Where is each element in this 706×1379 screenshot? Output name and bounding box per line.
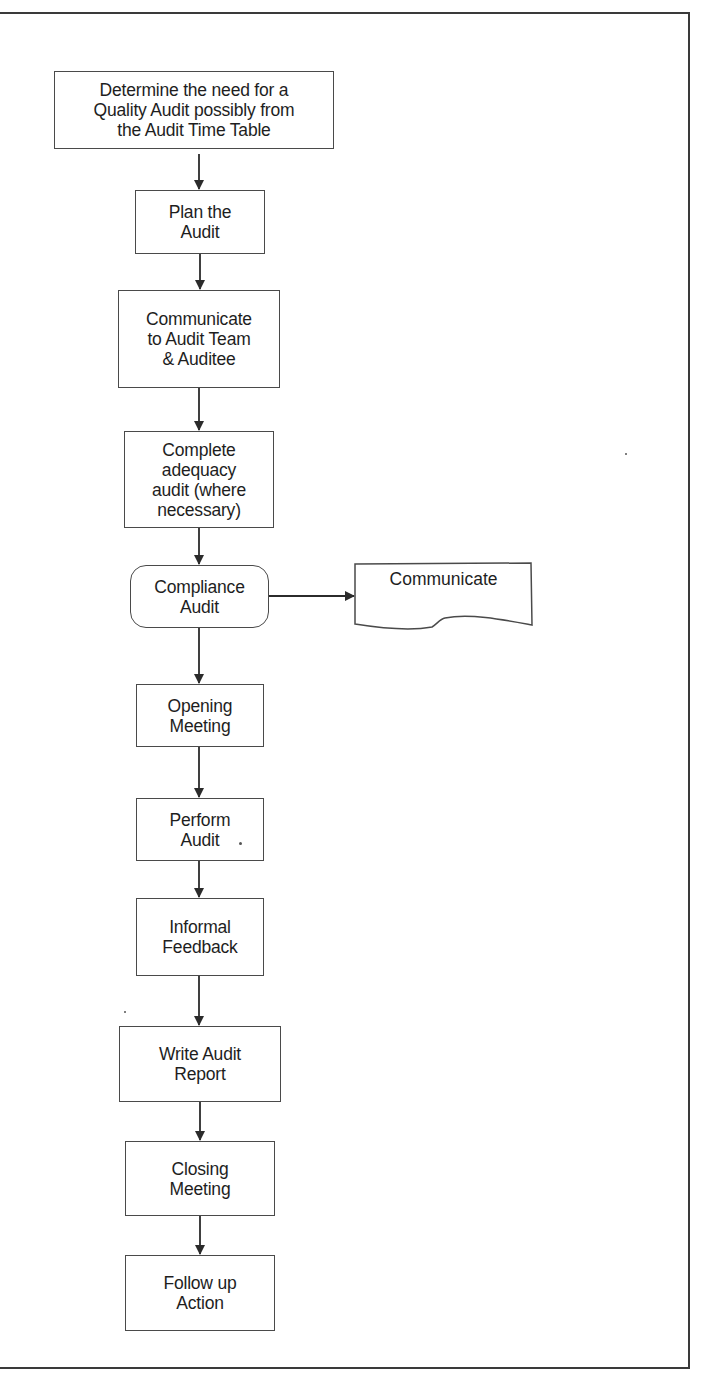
node-perform-audit: Perform Audit: [136, 798, 264, 861]
node-follow-up-action: Follow up Action: [125, 1255, 275, 1331]
node-compliance-audit: Compliance Audit: [130, 565, 269, 628]
node-adequacy-audit: Complete adequacy audit (where necessary…: [124, 431, 274, 528]
node-communicate-document: Communicate: [355, 569, 532, 590]
node-plan-audit: Plan the Audit: [135, 190, 265, 254]
scan-speck: [625, 453, 627, 455]
scan-speck: [239, 842, 242, 845]
node-communicate-team: Communicate to Audit Team & Auditee: [118, 290, 280, 388]
node-informal-feedback: Informal Feedback: [136, 898, 264, 976]
scan-speck: [124, 1011, 126, 1013]
node-closing-meeting: Closing Meeting: [125, 1141, 275, 1216]
connectors-layer: [0, 0, 706, 1379]
node-determine-need: Determine the need for a Quality Audit p…: [54, 71, 334, 149]
node-opening-meeting: Opening Meeting: [136, 684, 264, 747]
node-write-report: Write Audit Report: [119, 1026, 281, 1102]
